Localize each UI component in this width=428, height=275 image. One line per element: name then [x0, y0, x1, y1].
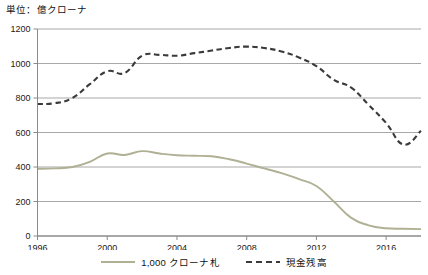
y-tick-label: 200	[15, 197, 30, 207]
y-tick-label: 0	[25, 231, 30, 241]
chart-container: 単位：億クローナ 020040060080010001200 199620002…	[0, 0, 428, 275]
legend-item-banknote: 1,000 クローナ札	[101, 255, 220, 269]
x-tick-label: 2012	[306, 243, 326, 250]
legend-label-banknote: 1,000 クローナ札	[141, 255, 220, 269]
gridlines-group	[38, 29, 422, 236]
x-axis-ticks-group: 199620002004200820122016	[27, 236, 396, 250]
y-tick-label: 1000	[10, 59, 30, 69]
legend-item-cash-balance: 現金残高	[246, 255, 327, 269]
x-tick-label: 2016	[376, 243, 396, 250]
series-line-cash-balance	[38, 47, 422, 145]
line-chart-plot: 020040060080010001200 199620002004200820…	[0, 0, 428, 250]
y-tick-label: 600	[15, 128, 30, 138]
legend-label-cash-balance: 現金残高	[286, 255, 327, 269]
chart-legend: 1,000 クローナ札 現金残高	[0, 255, 428, 269]
y-tick-label: 1200	[10, 24, 30, 34]
legend-swatch-dashed	[246, 257, 280, 267]
series-line-banknote	[38, 151, 422, 229]
y-tick-label: 800	[15, 93, 30, 103]
x-tick-label: 2004	[167, 243, 187, 250]
x-tick-label: 2008	[237, 243, 257, 250]
y-tick-label: 400	[15, 162, 30, 172]
x-tick-label: 2000	[97, 243, 117, 250]
legend-swatch-solid	[101, 257, 135, 267]
x-tick-label: 1996	[27, 243, 47, 250]
y-axis-ticks-group: 020040060080010001200	[10, 24, 37, 241]
